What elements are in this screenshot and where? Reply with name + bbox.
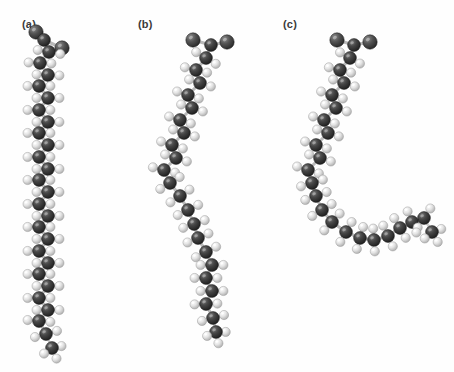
carbon-atom-b-11: [164, 177, 177, 190]
hydrogen-atom-a-18b: [46, 246, 55, 255]
hydrogen-atom-b-5b: [198, 107, 207, 116]
hydrogen-atom-c-5b: [342, 107, 351, 116]
hydrogen-atom-b-term0: [203, 331, 212, 340]
carbon-atom-b-8: [166, 139, 179, 152]
hydrogen-atom-b-6b: [186, 119, 195, 128]
hydrogen-atom-b-14b: [200, 216, 209, 225]
hydrogen-atom-b-19a: [196, 286, 205, 295]
carbon-atom-a-6: [33, 104, 46, 117]
hydrogen-atom-b-16b: [212, 242, 221, 251]
hydrogen-atom-c-4a: [317, 87, 326, 96]
carbon-atom-c-1: [344, 52, 357, 65]
hydrogen-atom-b-21a: [197, 316, 206, 325]
hydrogen-atom-a-8a: [23, 128, 32, 137]
hydrogen-atom-b-15a: [183, 238, 192, 247]
hydrogen-atom-c-9a: [305, 150, 314, 159]
hydrogen-atom-b-12b: [185, 185, 194, 194]
hydrogen-atom-a-8b: [46, 128, 55, 137]
hydrogen-atom-a-13a: [32, 187, 41, 196]
hydrogen-atom-b-10a: [148, 163, 157, 172]
hydrogen-atom-a-7b: [55, 117, 64, 126]
hydrogen-atom-b-4a: [173, 87, 182, 96]
hydrogen-atom-b-2b: [202, 68, 211, 77]
hydrogen-atom-b-17a: [196, 260, 205, 269]
carbon-atom-c-4: [326, 89, 339, 102]
carbon-atom-c-7: [322, 127, 335, 140]
carbon-atom-b-20: [200, 298, 213, 311]
carbon-atom-c-18: [382, 230, 395, 243]
hydrogen-atom-a-20b: [46, 269, 55, 278]
carbon-atom-c-13: [316, 204, 329, 217]
hydrogen-atom-a-2b: [47, 59, 56, 68]
hydrogen-atom-c-8a: [301, 137, 310, 146]
hydrogen-atom-c-1a: [335, 48, 344, 57]
hydrogen-atom-b-7b: [190, 132, 199, 141]
carbon-atom-c-14: [326, 216, 339, 229]
carbon-atom-a-17: [42, 233, 55, 246]
carbon-atom-b-0: [205, 39, 218, 52]
hydrogen-atom-b-15b: [204, 229, 213, 238]
carbon-atom-a-2: [34, 57, 47, 70]
hydrogen-atom-b-4b: [194, 94, 203, 103]
carbon-atom-c-5: [330, 102, 343, 115]
hydrogen-atom-b-3b: [206, 82, 215, 91]
carbon-atom-a-25: [40, 328, 53, 341]
carbon-atom-c-6: [318, 114, 331, 127]
carbon-atom-c-17: [368, 234, 381, 247]
hydrogen-atom-a-2a: [24, 58, 33, 67]
oxygen-atom-b-1: [220, 35, 234, 49]
hydrogen-atom-c-9b: [326, 157, 335, 166]
hydrogen-atom-a-21b: [55, 281, 64, 290]
carbon-atom-b-15: [192, 232, 205, 245]
hydrogen-atom-a-6a: [23, 105, 32, 114]
hydrogen-atom-a-3b: [55, 71, 64, 80]
carbon-atom-b-19: [206, 285, 219, 298]
hydrogen-atom-a-10a: [23, 152, 32, 161]
carbon-atom-b-6: [174, 114, 187, 127]
hydrogen-atom-a-7a: [32, 117, 41, 126]
hydrogen-atom-b-13a: [173, 210, 182, 219]
hydrogen-atom-b-20a: [190, 300, 199, 309]
hydrogen-atom-b-8b: [178, 144, 187, 153]
atoms-layer: [23, 25, 446, 363]
hydrogen-atom-a-20a: [23, 269, 32, 278]
hydrogen-atom-a-11a: [32, 164, 41, 173]
hydrogen-atom-c-6a: [309, 112, 318, 121]
hydrogen-atom-b-5a: [177, 100, 186, 109]
hydrogen-atom-a-19a: [32, 258, 41, 267]
hydrogen-atom-a-14b: [46, 199, 55, 208]
hydrogen-atom-b-2a: [180, 63, 189, 72]
carbon-atom-a-5: [42, 92, 55, 105]
hydrogen-atom-c-term0: [420, 234, 429, 243]
carbon-atom-a-16: [33, 221, 46, 234]
carbon-atom-a-20: [33, 268, 46, 281]
hydrogen-atom-a-5b: [55, 93, 64, 102]
carbon-atom-c-9: [314, 152, 327, 165]
carbon-atom-c-19: [394, 222, 407, 235]
hydrogen-atom-a-9a: [32, 140, 41, 149]
hydrogen-atom-c-15a: [336, 237, 345, 246]
hydrogen-atom-a-4b: [46, 81, 55, 90]
oxygen-atom-c-0: [330, 33, 344, 47]
hydrogen-atom-b-11b: [175, 172, 184, 181]
hydrogen-atom-a-14a: [23, 199, 32, 208]
hydrogen-atom-b-20b: [213, 299, 222, 308]
hydrogen-atom-c-1b: [355, 59, 364, 68]
carbon-atom-c-21: [418, 212, 431, 225]
carbon-atom-a-13: [42, 186, 55, 199]
hydrogen-atom-a-16b: [46, 222, 55, 231]
carbon-atom-a-10: [33, 151, 46, 164]
hydrogen-atom-a-25b: [52, 326, 61, 335]
hydrogen-atom-b-7a: [169, 125, 178, 134]
hydrogen-atom-b-14a: [179, 223, 188, 232]
hydrogen-atom-a-15a: [32, 211, 41, 220]
carbon-atom-b-7: [178, 127, 191, 140]
hydrogen-atom-a-15b: [55, 211, 64, 220]
hydrogen-atom-c-14a: [320, 226, 329, 235]
carbon-atom-a-15: [42, 210, 55, 223]
hydrogen-atom-a-3a: [32, 70, 41, 79]
carbon-atom-b-3: [194, 77, 207, 90]
carbon-atom-b-21: [207, 312, 220, 325]
hydrogen-atom-b-12a: [166, 198, 175, 207]
hydrogen-atom-c-12b: [322, 187, 331, 196]
